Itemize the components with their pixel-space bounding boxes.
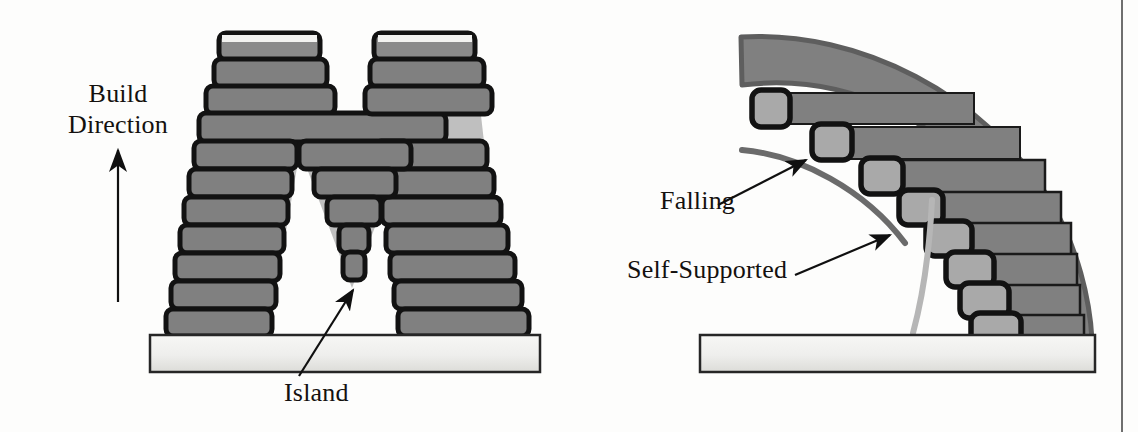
self-supported-arrow bbox=[795, 235, 890, 275]
falling-label: Falling bbox=[660, 186, 735, 216]
figure-root: Build Direction Island Falling Self-Supp… bbox=[0, 0, 1138, 432]
self-supported-label: Self-Supported bbox=[627, 255, 787, 285]
build-direction-line1: Build bbox=[48, 78, 188, 109]
build-direction-line2: Direction bbox=[48, 109, 188, 140]
page-edge-divider bbox=[1121, 0, 1123, 432]
left-panel-graphics bbox=[0, 0, 1138, 432]
island-label: Island bbox=[284, 378, 349, 408]
right-baseplate bbox=[700, 335, 1095, 372]
left-baseplate bbox=[150, 335, 540, 372]
build-direction-label: Build Direction bbox=[48, 78, 188, 140]
